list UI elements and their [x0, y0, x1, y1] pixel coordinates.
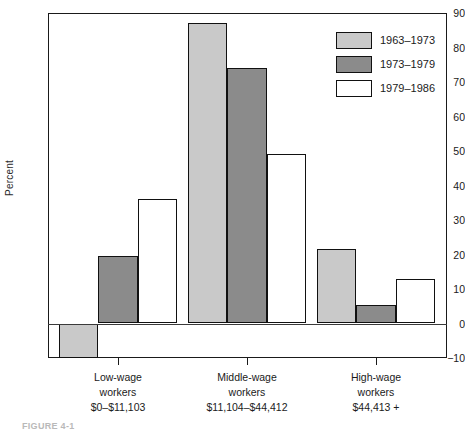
x-tick-mark [118, 358, 119, 365]
bar [267, 154, 307, 323]
bar [188, 23, 228, 323]
x-category-label-line: workers [296, 385, 456, 400]
y-axis-title: Percent [4, 148, 15, 208]
legend-swatch [336, 32, 372, 49]
bar [356, 305, 396, 324]
x-category-label-line: High-wage [296, 370, 456, 385]
legend-swatch [336, 80, 372, 97]
bar [227, 68, 267, 323]
zero-baseline [48, 324, 447, 325]
bar [98, 256, 138, 323]
bar [138, 199, 178, 323]
legend-label: 1963–1973 [380, 34, 435, 47]
x-tick-mark [247, 358, 248, 365]
bar [396, 279, 436, 323]
x-tick-mark [376, 358, 377, 365]
legend-label: 1973–1979 [380, 58, 435, 71]
legend-label: 1979–1986 [380, 82, 435, 95]
x-category-label-line: $44,413 + [296, 400, 456, 415]
bar [317, 249, 357, 323]
legend-swatch [336, 56, 372, 73]
x-category-label: High-wageworkers$44,413 + [296, 370, 456, 415]
bar [59, 324, 99, 359]
figure-caption: FIGURE 4-1 [22, 421, 75, 430]
bar-chart: Percent 9080706050403020100−10 Low-wagew… [0, 0, 465, 430]
